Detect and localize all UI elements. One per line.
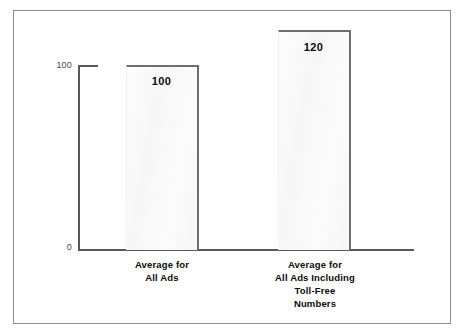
y-axis-tick-label-0: 0 <box>36 242 72 252</box>
y-axis-tick-100 <box>78 65 98 67</box>
bar-average-for-all-ads-including-toll-free-numbers <box>278 30 351 250</box>
y-axis-line <box>78 66 80 251</box>
category-label-1-line-2: All Ads Including <box>250 271 380 284</box>
plot-area: 100 0 100 120 Average for All Ads Averag… <box>0 0 461 335</box>
y-axis-tick-label-100: 100 <box>36 60 72 70</box>
category-label-0-line-2: All Ads <box>102 271 222 284</box>
bar-value-label-0: 100 <box>126 75 197 87</box>
chart-figure: 100 0 100 120 Average for All Ads Averag… <box>0 0 461 335</box>
category-label-1-line-4: Numbers <box>250 297 380 310</box>
category-label-0-line-1: Average for <box>102 258 222 271</box>
category-label-1-line-3: Toll-Free <box>250 284 380 297</box>
bar-value-label-1: 120 <box>278 41 349 53</box>
category-label-1: Average for All Ads Including Toll-Free … <box>250 258 380 310</box>
category-label-1-line-1: Average for <box>250 258 380 271</box>
category-label-0: Average for All Ads <box>102 258 222 284</box>
bar-average-for-all-ads <box>126 65 199 250</box>
